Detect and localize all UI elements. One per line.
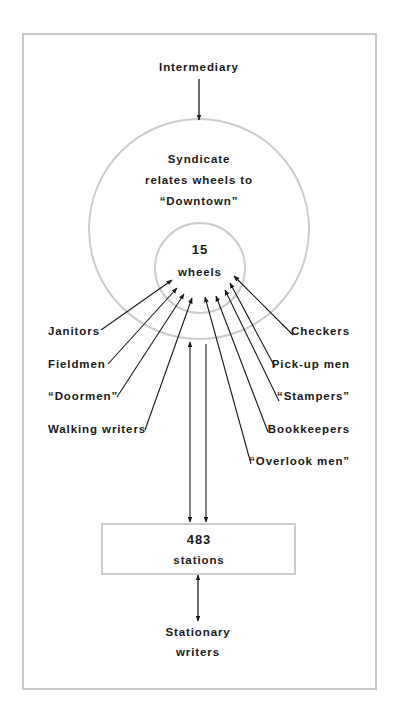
role-janitors: Janitors xyxy=(48,325,100,337)
doormen-arrow xyxy=(117,294,184,397)
stationary-writers-line-1: Stationary xyxy=(165,626,230,638)
stationary-writers-line-2: writers xyxy=(175,646,220,658)
stampers-arrow xyxy=(225,290,279,401)
role-stampers: “Stampers” xyxy=(277,390,350,402)
numbers-racket-diagram: Intermediary Syndicate relates wheels to… xyxy=(0,0,397,716)
wheels-count: 15 xyxy=(192,242,208,257)
role-walking-writers: Walking writers xyxy=(48,423,146,435)
role-fieldmen: Fieldmen xyxy=(48,358,106,370)
pick-up-men-arrow xyxy=(230,283,275,367)
syndicate-line-3: “Downtown” xyxy=(160,195,239,207)
syndicate-line-2: relates wheels to xyxy=(145,174,253,186)
role-pick-up-men: Pick-up men xyxy=(272,358,350,370)
stations-unit: stations xyxy=(173,554,224,566)
role-bookkeepers: Bookkeepers xyxy=(268,423,350,435)
wheels-unit: wheels xyxy=(177,266,222,278)
syndicate-line-1: Syndicate xyxy=(168,153,230,165)
stations-count: 483 xyxy=(187,532,211,547)
role-overlook-men: “Overlook men” xyxy=(249,455,350,467)
overlook-men-arrow xyxy=(205,297,251,464)
role-checkers: Checkers xyxy=(291,325,350,337)
role-doormen: “Doormen” xyxy=(48,390,118,402)
intermediary-label: Intermediary xyxy=(159,61,239,73)
fieldmen-arrow xyxy=(108,288,177,364)
syndicate-ring xyxy=(89,119,309,339)
